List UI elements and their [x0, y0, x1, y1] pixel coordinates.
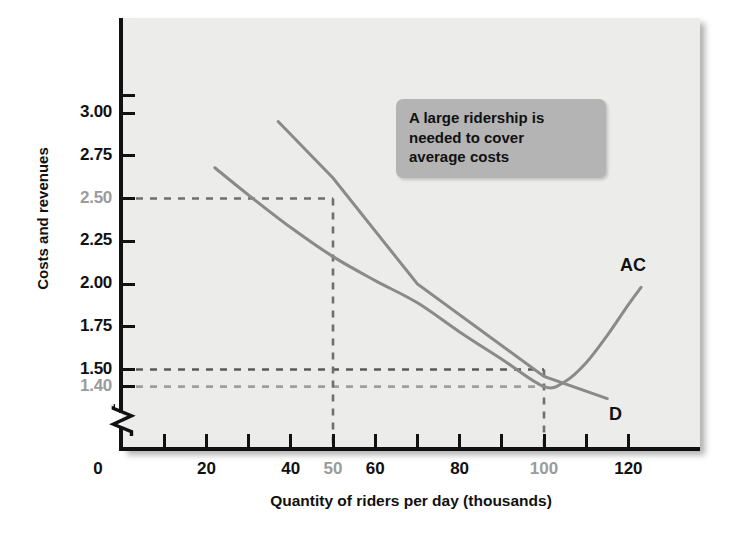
- annotation-callout: A large ridership is needed to cover ave…: [396, 99, 606, 178]
- y-tick-1-5: [122, 368, 135, 371]
- x-tick-60: [374, 434, 377, 447]
- y-tick-label: 2.00: [42, 273, 112, 293]
- x-axis-line: [119, 447, 700, 451]
- x-tick-label: 120: [606, 459, 650, 479]
- x-tick-label: 100: [522, 459, 566, 479]
- x-tick-120: [627, 434, 630, 447]
- x-tick-70: [416, 434, 419, 447]
- y-tick-2: [122, 283, 135, 286]
- x-tick-label: 60: [353, 459, 397, 479]
- curve-ac: [215, 168, 641, 388]
- y-tick-label: 2.25: [42, 230, 112, 250]
- y-axis-line: [119, 18, 123, 413]
- x-tick-40: [289, 434, 292, 447]
- x-tick-label: 0: [76, 459, 120, 479]
- y-tick-label: 1.75: [42, 316, 112, 336]
- x-tick-label: 50: [311, 459, 355, 479]
- chart-figure: 1.401.501.752.002.252.502.753.0002040506…: [0, 0, 743, 537]
- x-tick-90: [500, 434, 503, 447]
- annotation-line-1: A large ridership is: [409, 108, 595, 128]
- y-tick-2-25: [122, 240, 135, 243]
- y-tick-1-75: [122, 325, 135, 328]
- curve-label-d: D: [609, 404, 622, 425]
- x-tick-label: 80: [438, 459, 482, 479]
- x-tick-label: 20: [184, 459, 228, 479]
- x-tick-10: [163, 434, 166, 447]
- x-tick-50: [332, 434, 335, 447]
- x-tick-30: [247, 434, 250, 447]
- y-tick-2-5: [122, 197, 135, 200]
- x-tick-80: [458, 434, 461, 447]
- x-tick-20: [205, 434, 208, 447]
- y-tick-2-75: [122, 154, 135, 157]
- x-tick-110: [585, 434, 588, 447]
- x-tick-label: 40: [269, 459, 313, 479]
- annotation-line-3: average costs: [409, 147, 595, 167]
- y-axis-title: Costs and revenues: [34, 109, 51, 329]
- x-axis-title: Quantity of riders per day (thousands): [122, 492, 700, 510]
- y-tick-1-4: [122, 385, 135, 388]
- x-tick-100: [543, 434, 546, 447]
- y-tick-label: 2.75: [42, 145, 112, 165]
- y-tick-3: [122, 112, 135, 115]
- annotation-line-2: needed to cover: [409, 128, 595, 148]
- reference-lines-group: [122, 199, 544, 448]
- y-tick-label: 1.50: [42, 359, 112, 379]
- y-tick-label: 2.50: [42, 188, 112, 208]
- y-tick-3-1: [122, 94, 135, 97]
- curve-label-ac: AC: [620, 255, 646, 276]
- y-tick-label: 1.40: [42, 376, 112, 396]
- axis-break-icon: [110, 404, 138, 436]
- y-tick-label: 3.00: [42, 102, 112, 122]
